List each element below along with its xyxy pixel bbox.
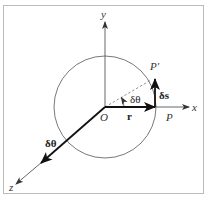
point-p-label: P xyxy=(165,111,173,123)
z-axis-label: z xyxy=(8,181,14,193)
point-p-prime-label: P′ xyxy=(149,60,160,72)
angle-label: δθ xyxy=(130,93,140,105)
dtheta-vector-label: δθ xyxy=(45,137,57,149)
origin-label: O xyxy=(100,111,108,123)
y-axis-label: y xyxy=(100,8,106,20)
z-axis xyxy=(16,162,42,184)
dtheta-vector xyxy=(41,107,105,163)
x-axis-label: x xyxy=(191,101,197,113)
radius-to-p-prime-dashed xyxy=(105,80,151,107)
angle-arc xyxy=(122,98,125,108)
r-vector-label: r xyxy=(127,110,132,122)
rotation-diagram: y x z O P P′ r δs δθ δθ xyxy=(0,0,206,199)
ds-vector-label: δs xyxy=(159,89,170,101)
frame-border xyxy=(4,6,204,194)
